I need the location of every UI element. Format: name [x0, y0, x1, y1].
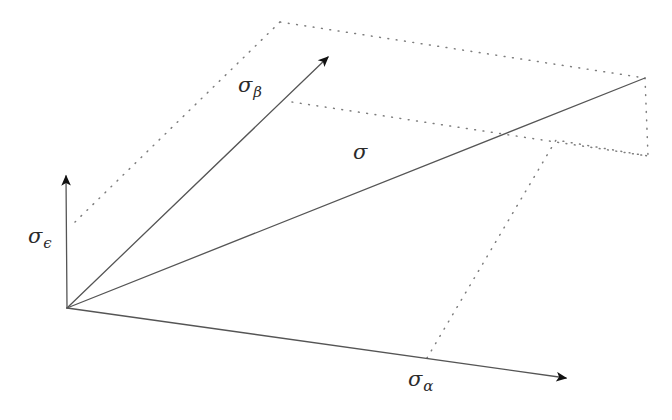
- sigma-epsilon-base: σ: [28, 224, 42, 248]
- sigma-beta-base: σ: [238, 73, 252, 97]
- sigma-epsilon-vector: [66, 176, 67, 308]
- dotted-beta-top-to-far-corner: [280, 22, 645, 78]
- sigma-beta-vector: [67, 57, 328, 308]
- vectors-group: [66, 57, 645, 378]
- vector-canvas: [0, 0, 672, 420]
- sigma-alpha-subscript: α: [423, 377, 433, 395]
- dotted-alpha-base-to-mid-corner: [427, 140, 648, 358]
- sigma-epsilon-label: σϵ: [28, 226, 52, 251]
- dotted-far-corner-vertical: [645, 78, 648, 156]
- dotted-eps-to-beta-top: [75, 22, 280, 222]
- construction-lines-group: [75, 22, 648, 358]
- sigma-alpha-base: σ: [408, 367, 422, 391]
- sigma-label: σ: [353, 142, 368, 167]
- sigma-alpha-label: σα: [408, 369, 433, 394]
- sigma-beta-label: σβ: [238, 75, 262, 100]
- sigma-alpha-vector: [67, 308, 566, 378]
- sigma-beta-subscript: β: [253, 83, 262, 101]
- sigma-base: σ: [353, 140, 367, 164]
- sigma-resultant-vector: [67, 78, 645, 308]
- sigma-epsilon-subscript: ϵ: [43, 234, 51, 252]
- vector-decomposition-figure: σβ σ σϵ σα: [0, 0, 672, 420]
